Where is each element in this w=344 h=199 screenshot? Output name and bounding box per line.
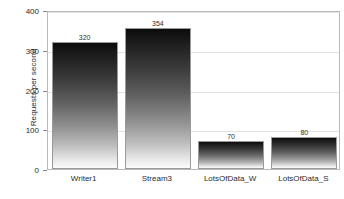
x-axis: Writer1Stream3LotsOfData_WLotsOfData_S — [47, 174, 340, 194]
y-tick-label: 200 — [0, 86, 39, 95]
bar-value-label: 70 — [227, 133, 235, 140]
bar[interactable] — [52, 42, 118, 169]
x-tick-label: Writer1 — [71, 174, 97, 183]
y-tick-label: 400 — [0, 7, 39, 16]
bar[interactable] — [271, 137, 337, 169]
y-tick-mark — [43, 170, 47, 171]
bar-value-label: 354 — [152, 20, 164, 27]
y-tick-label: 0 — [0, 166, 39, 175]
bar[interactable] — [125, 28, 191, 169]
x-tick-label: LotsOfData_S — [278, 174, 328, 183]
bar[interactable] — [198, 141, 264, 169]
bar-value-label: 320 — [79, 34, 91, 41]
x-tick-label: Stream3 — [142, 174, 172, 183]
bar-value-label: 80 — [300, 129, 308, 136]
y-axis: 0100200300400 — [0, 11, 47, 170]
plot-area: 3203547080 — [47, 11, 340, 170]
bar-chart: Requests per second 0100200300400 320354… — [0, 0, 344, 199]
y-tick-label: 100 — [0, 126, 39, 135]
x-tick-label: LotsOfData_W — [204, 174, 256, 183]
y-tick-label: 300 — [0, 46, 39, 55]
bars-layer: 3203547080 — [48, 12, 339, 169]
